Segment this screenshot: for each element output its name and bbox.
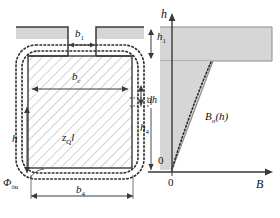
diagram-top-band — [160, 27, 272, 61]
label-b1: b1 — [75, 28, 84, 42]
label-origin-inner: 0 — [158, 155, 164, 166]
figure-container: b1 bc b4 h zQl Φöu h1 h4 dh Bσ(h) h B 0 … — [0, 0, 280, 218]
dimension-h4 — [148, 99, 153, 170]
dimension-h1 — [148, 29, 154, 59]
label-origin-outer: 0 — [168, 177, 174, 188]
label-phi-ou: Φöu — [3, 177, 18, 191]
dimension-b1 — [69, 42, 95, 47]
top-flange-right — [96, 27, 144, 39]
top-flange-left — [16, 27, 68, 39]
label-axis-h: h — [161, 8, 167, 20]
label-h-section: h — [12, 133, 18, 144]
label-b-sigma-h: Bσ(h) — [205, 111, 228, 125]
label-b4: b4 — [76, 184, 85, 198]
label-bc: bc — [72, 71, 81, 85]
label-h4: h4 — [140, 122, 149, 136]
label-dh: dh — [147, 95, 157, 105]
figure-graphics — [0, 0, 280, 218]
label-axis-B: B — [256, 178, 263, 190]
label-h1: h1 — [157, 31, 166, 45]
label-zq: zQl — [62, 132, 74, 146]
